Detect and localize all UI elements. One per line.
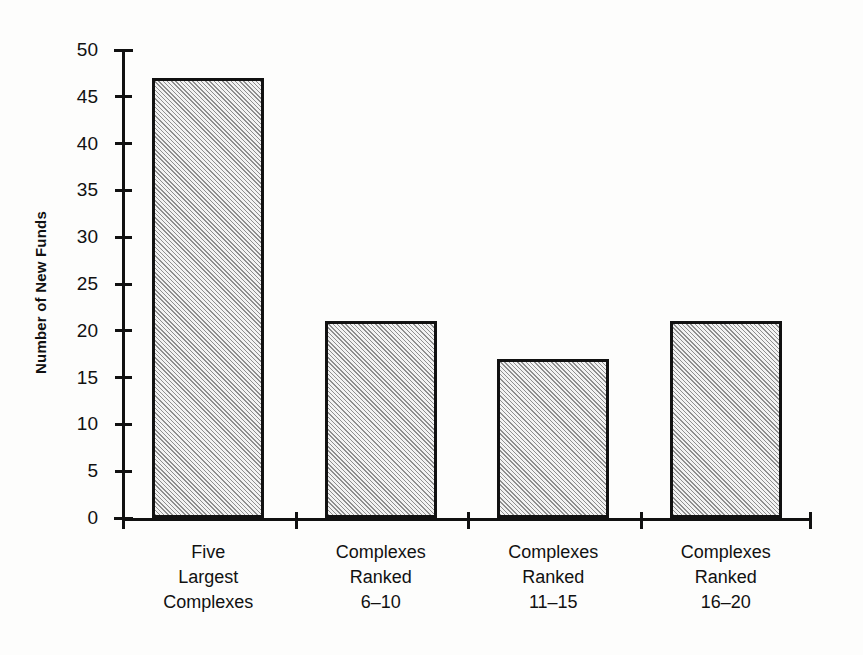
x-tick-4 (809, 512, 812, 529)
x-tick-1 (295, 512, 298, 529)
y-tick-25 (115, 283, 132, 286)
y-tick-label-15: 15 (0, 367, 98, 389)
y-tick-45 (115, 95, 132, 98)
y-tick-label-0: 0 (0, 507, 98, 529)
x-tick-3 (640, 512, 643, 529)
x-category-label: FiveLargestComplexes (122, 540, 295, 615)
x-category-label-line: Complexes (467, 540, 640, 565)
plot-area (122, 50, 812, 518)
bar (670, 321, 782, 518)
x-category-label-line: Complexes (640, 540, 813, 565)
bar (325, 321, 437, 518)
bar-chart: Number of New Funds 05101520253035404550… (0, 0, 863, 655)
y-tick-50 (114, 49, 133, 52)
x-category-label-line: Ranked (467, 565, 640, 590)
x-tick-2 (467, 512, 470, 529)
y-tick-15 (115, 376, 132, 379)
x-category-label-line: Complexes (295, 540, 468, 565)
x-category-label-line: Five (122, 540, 295, 565)
y-tick-label-40: 40 (0, 133, 98, 155)
bar (497, 359, 609, 518)
y-tick-20 (115, 329, 132, 332)
x-category-label-line: Largest (122, 565, 295, 590)
x-category-label: ComplexesRanked16–20 (640, 540, 813, 615)
x-category-label-line: 6–10 (295, 590, 468, 615)
y-tick-label-35: 35 (0, 179, 98, 201)
y-tick-label-10: 10 (0, 413, 98, 435)
x-category-label-line: 16–20 (640, 590, 813, 615)
x-category-label-line: Complexes (122, 590, 295, 615)
y-tick-label-5: 5 (0, 460, 98, 482)
x-category-label-line: Ranked (295, 565, 468, 590)
x-category-label-line: 11–15 (467, 590, 640, 615)
y-tick-label-45: 45 (0, 86, 98, 108)
y-tick-label-20: 20 (0, 320, 98, 342)
y-tick-30 (115, 236, 132, 239)
y-tick-10 (115, 423, 132, 426)
y-tick-label-30: 30 (0, 226, 98, 248)
y-tick-5 (115, 470, 132, 473)
x-category-label: ComplexesRanked11–15 (467, 540, 640, 615)
x-category-label: ComplexesRanked6–10 (295, 540, 468, 615)
x-tick-start (122, 512, 125, 529)
y-tick-label-50: 50 (0, 39, 98, 61)
y-tick-40 (115, 142, 132, 145)
y-tick-label-25: 25 (0, 273, 98, 295)
bar (152, 78, 264, 518)
x-category-label-line: Ranked (640, 565, 813, 590)
y-tick-35 (115, 189, 132, 192)
